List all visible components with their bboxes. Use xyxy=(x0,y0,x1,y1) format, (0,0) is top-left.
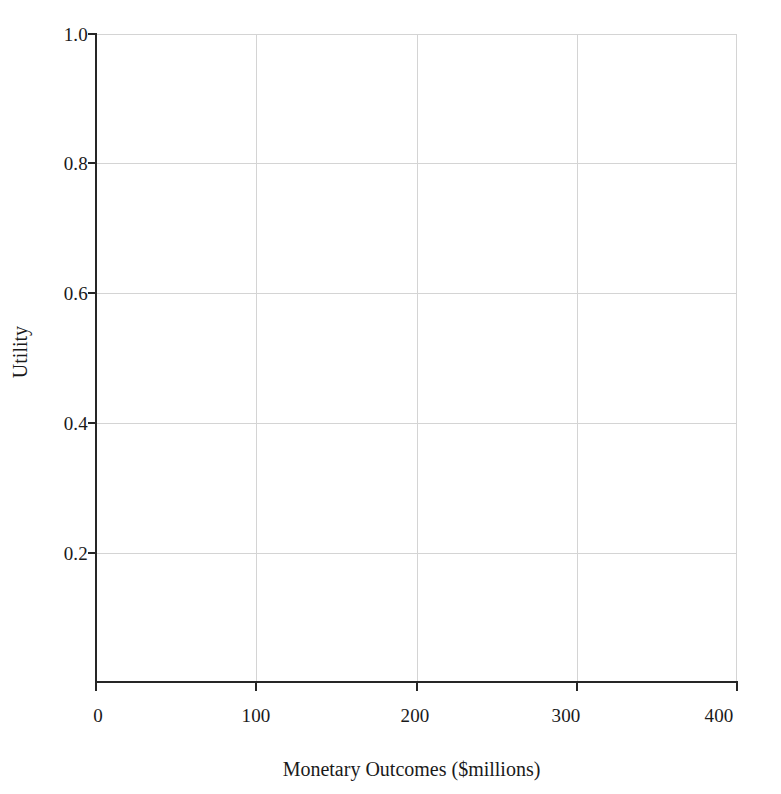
y-tick-mark-0.2 xyxy=(88,552,96,554)
y-axis-title: Utility xyxy=(8,302,32,402)
plot-area xyxy=(96,34,737,682)
y-tick-label-0.4: 0.4 xyxy=(4,414,88,433)
y-tick-mark-1.0 xyxy=(88,33,96,35)
gridline-x-200 xyxy=(417,34,418,682)
gridline-x-400 xyxy=(736,34,737,682)
x-tick-label-100: 100 xyxy=(196,706,316,725)
y-axis-line xyxy=(95,33,97,684)
x-tick-label-200: 200 xyxy=(355,706,475,725)
x-tick-mark-0 xyxy=(95,683,97,691)
y-tick-mark-0.4 xyxy=(88,422,96,424)
gridline-x-100 xyxy=(256,34,257,682)
chart-figure: 1.0 0.8 0.6 0.4 0.2 0 100 200 300 400 Mo… xyxy=(0,0,781,794)
x-tick-mark-400 xyxy=(736,683,738,691)
y-tick-label-0.8: 0.8 xyxy=(4,154,88,173)
y-tick-mark-0.8 xyxy=(88,162,96,164)
x-tick-mark-200 xyxy=(416,683,418,691)
gridline-x-300 xyxy=(577,34,578,682)
x-axis-title: Monetary Outcomes ($millions) xyxy=(0,757,781,781)
x-tick-label-0: 0 xyxy=(38,706,158,725)
x-tick-mark-100 xyxy=(255,683,257,691)
y-tick-label-0.2: 0.2 xyxy=(4,544,88,563)
x-tick-label-400: 400 xyxy=(659,706,779,725)
y-tick-label-0.6: 0.6 xyxy=(4,284,88,303)
y-tick-mark-0.6 xyxy=(88,292,96,294)
x-tick-label-300: 300 xyxy=(506,706,626,725)
y-tick-label-1.0: 1.0 xyxy=(4,25,88,44)
x-tick-mark-300 xyxy=(576,683,578,691)
x-axis-title-text: Monetary Outcomes ($millions) xyxy=(283,758,541,780)
